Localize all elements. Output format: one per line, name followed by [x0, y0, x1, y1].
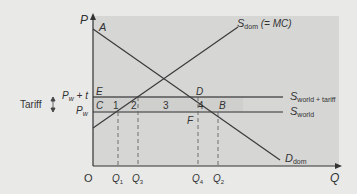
plot-area [93, 16, 339, 166]
point-e-label: E [96, 86, 103, 97]
q4-label: Q4 [192, 173, 204, 185]
point-c-label: C [96, 100, 104, 111]
q3-label: Q3 [132, 173, 144, 185]
tariff-diagram: P Q O A E C D B F 1 2 3 4 Pw + t Pw Tari… [0, 0, 357, 194]
q1-label: Q1 [112, 173, 124, 185]
y-axis-label: P [80, 13, 88, 27]
point-b-label: B [219, 100, 226, 111]
area-3-label: 3 [163, 100, 169, 111]
point-d-label: D [196, 86, 203, 97]
area-2-label: 2 [131, 100, 137, 111]
q2-label: Q2 [213, 173, 225, 185]
x-axis-label: Q [330, 171, 339, 185]
tariff-range-icon [51, 97, 55, 112]
tariff-label: Tariff [20, 99, 42, 110]
point-a-label: A [98, 21, 106, 33]
area-4-label: 4 [198, 100, 204, 111]
area-1-label: 1 [113, 100, 119, 111]
origin-label: O [84, 172, 93, 184]
point-f-label: F [187, 115, 194, 126]
world-price-label: Pw [76, 105, 89, 117]
world-plus-tariff-price-label: Pw + t [62, 90, 89, 102]
